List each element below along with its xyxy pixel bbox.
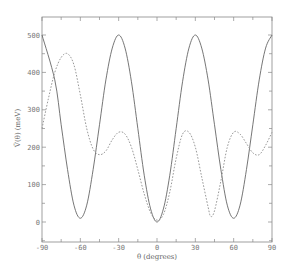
series-dashed-line — [42, 53, 272, 220]
x-tick-label: 30 — [191, 244, 199, 252]
x-tick-label: 60 — [229, 244, 237, 252]
chart: -90-60-300306090 0100200300400500 θ (deg… — [0, 0, 290, 267]
y-tick-label: 0 — [36, 219, 40, 227]
y-tick-label: 300 — [27, 106, 40, 114]
y-tick-label: 400 — [27, 69, 40, 77]
x-tick-label: -60 — [74, 244, 87, 252]
y-tick-label: 200 — [27, 144, 40, 152]
x-tick-label: 0 — [155, 244, 159, 252]
x-axis-title: θ (degrees) — [137, 253, 177, 261]
y-tick-label: 500 — [27, 32, 40, 40]
plot-frame — [42, 17, 272, 242]
series-solid-line — [42, 35, 272, 222]
x-tick-label: -30 — [112, 244, 125, 252]
y-axis-title: V̄(θ) (meV) — [13, 109, 22, 149]
y-tick-label: 100 — [27, 181, 40, 189]
x-tick-label: 90 — [268, 244, 276, 252]
x-tick-label: -90 — [36, 244, 49, 252]
series-group — [42, 35, 272, 222]
